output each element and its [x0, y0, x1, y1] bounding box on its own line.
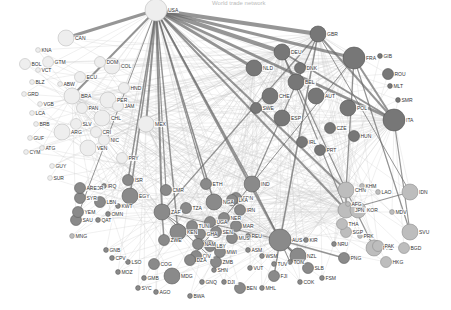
node-cym[interactable] [24, 150, 29, 155]
node-nam[interactable] [193, 239, 204, 250]
node-tza[interactable] [181, 203, 192, 214]
node-swe[interactable] [251, 103, 262, 114]
node-dza[interactable] [185, 255, 196, 266]
node-gnb[interactable] [104, 248, 109, 253]
node-nic[interactable] [99, 135, 110, 146]
node-rou[interactable] [383, 69, 394, 80]
node-egy[interactable] [122, 188, 138, 204]
node-asm[interactable] [246, 248, 251, 253]
node-kna[interactable] [36, 48, 41, 53]
node-mdg[interactable] [164, 268, 180, 284]
node-ven[interactable] [80, 140, 96, 156]
node-gtm[interactable] [43, 57, 54, 68]
node-guf[interactable] [28, 136, 33, 141]
node-tha[interactable] [337, 219, 348, 230]
node-bra[interactable] [64, 88, 80, 104]
node-mex[interactable] [138, 116, 154, 132]
node-shn[interactable] [212, 268, 217, 273]
node-lca[interactable] [30, 111, 35, 116]
node-svu[interactable] [402, 224, 418, 240]
node-cog[interactable] [149, 259, 160, 270]
node-dom[interactable] [95, 57, 106, 68]
node-vgb[interactable] [38, 102, 43, 107]
node-fji[interactable] [269, 271, 280, 282]
node-nru[interactable] [332, 242, 337, 247]
node-aut[interactable] [308, 88, 324, 104]
node-pol[interactable] [340, 100, 356, 116]
node-ago[interactable] [154, 290, 159, 295]
node-chn[interactable] [338, 182, 354, 198]
node-hun[interactable] [349, 131, 360, 142]
node-slv[interactable] [71, 119, 82, 130]
node-isr[interactable] [123, 175, 134, 186]
node-mdv[interactable] [390, 210, 395, 215]
node-wsm[interactable] [260, 254, 265, 259]
node-cpv[interactable] [110, 256, 115, 261]
node-syr[interactable] [75, 193, 86, 204]
node-grd[interactable] [22, 92, 27, 97]
node-zwe[interactable] [159, 235, 170, 246]
node-esp[interactable] [274, 110, 290, 126]
node-gnq[interactable] [200, 280, 205, 285]
node-kir[interactable] [304, 238, 309, 243]
node-png[interactable] [339, 253, 350, 264]
node-dji[interactable] [222, 280, 227, 285]
node-mng[interactable] [70, 234, 75, 239]
node-arg[interactable] [54, 124, 70, 140]
node-gbr[interactable] [310, 26, 326, 42]
node-gmb[interactable] [142, 276, 147, 281]
node-ind[interactable] [244, 176, 260, 192]
node-moz[interactable] [116, 270, 121, 275]
node-cok[interactable] [298, 280, 303, 285]
node-ecu[interactable] [75, 72, 86, 83]
node-hkg[interactable] [381, 257, 392, 268]
node-irl[interactable] [297, 137, 308, 148]
node-afg[interactable] [346, 202, 351, 207]
node-cri[interactable] [91, 127, 102, 138]
node-pan[interactable] [77, 103, 88, 114]
node-usa[interactable] [145, 0, 167, 21]
node-vct[interactable] [36, 68, 41, 73]
node-sur[interactable] [48, 176, 53, 181]
node-fsm[interactable] [320, 276, 325, 281]
node-guy[interactable] [50, 164, 55, 169]
node-hnd[interactable] [119, 83, 130, 94]
node-irn[interactable] [235, 205, 246, 216]
node-bwa[interactable] [188, 294, 193, 299]
node-chl[interactable] [94, 110, 110, 126]
node-eth[interactable] [201, 179, 212, 190]
node-nld[interactable] [246, 60, 262, 76]
node-abw[interactable] [58, 82, 63, 87]
node-zaf[interactable] [154, 204, 170, 220]
node-vut[interactable] [248, 266, 253, 271]
node-pak[interactable] [373, 241, 384, 252]
node-fra[interactable] [343, 47, 365, 69]
node-bgd[interactable] [399, 243, 410, 254]
node-cze[interactable] [325, 123, 336, 134]
node-brb[interactable] [34, 122, 39, 127]
node-qat[interactable] [96, 218, 101, 223]
node-nga[interactable] [206, 194, 222, 210]
node-gib[interactable] [378, 54, 383, 59]
node-mhl[interactable] [260, 286, 265, 291]
node-dnk[interactable] [295, 63, 306, 74]
node-cmr[interactable] [161, 185, 172, 196]
node-are[interactable] [75, 183, 86, 194]
node-bol[interactable] [20, 59, 31, 70]
node-prt[interactable] [315, 145, 326, 156]
node-che[interactable] [262, 88, 278, 104]
node-yem[interactable] [73, 207, 84, 218]
node-ita[interactable] [383, 109, 405, 131]
node-pry[interactable] [117, 153, 128, 164]
node-mlt[interactable] [388, 84, 393, 89]
node-idn[interactable] [402, 184, 418, 200]
node-deu[interactable] [274, 44, 290, 60]
node-lao[interactable] [376, 190, 381, 195]
node-blz[interactable] [30, 80, 35, 85]
node-smr[interactable] [396, 98, 401, 103]
node-aus[interactable] [269, 229, 291, 251]
node-bel[interactable] [288, 74, 304, 90]
node-syc[interactable] [136, 286, 141, 291]
node-can[interactable] [58, 30, 74, 46]
node-omn[interactable] [106, 212, 111, 217]
